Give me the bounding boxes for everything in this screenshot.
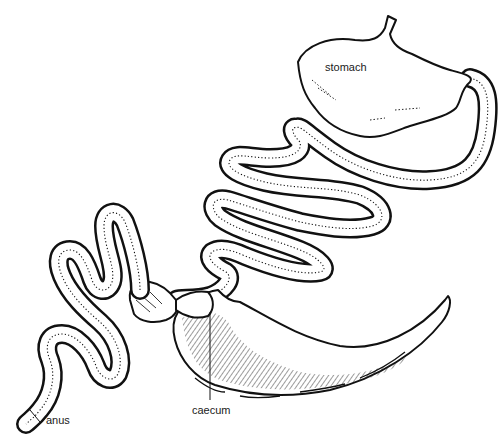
digestive-tract-diagram: stomach caecum anus	[0, 0, 499, 445]
digestive-tract-drawing	[0, 0, 499, 445]
anus-label: anus	[46, 415, 70, 426]
colon-loops	[26, 213, 140, 424]
stomach-label: stomach	[325, 62, 367, 73]
large-intestine	[174, 290, 450, 398]
caecum-label: caecum	[192, 405, 231, 416]
stomach	[298, 16, 471, 137]
